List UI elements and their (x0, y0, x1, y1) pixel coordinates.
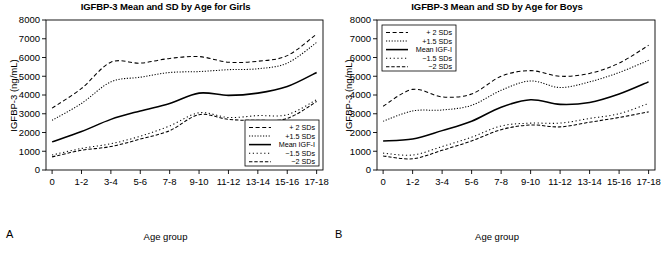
svg-text:3000: 3000 (350, 108, 371, 119)
panel-letter-b: B (335, 228, 342, 240)
svg-text:15-16: 15-16 (275, 176, 299, 187)
svg-text:2000: 2000 (19, 127, 40, 138)
svg-text:1-2: 1-2 (75, 176, 89, 187)
svg-text:5000: 5000 (350, 71, 371, 82)
chart-svg-boys: 01000200030004000500060007000800001-23-4… (331, 16, 663, 208)
svg-text:5-6: 5-6 (465, 176, 479, 187)
svg-text:11-12: 11-12 (217, 176, 241, 187)
figure-container: IGFBP-3 Mean and SD by Age for Girls IGF… (0, 0, 663, 253)
svg-text:0: 0 (380, 176, 385, 187)
svg-text:13-14: 13-14 (246, 176, 270, 187)
svg-text:4000: 4000 (19, 89, 40, 100)
series-line (383, 103, 648, 155)
legend-label: −2 SDs (291, 157, 315, 166)
series-line (383, 82, 648, 141)
x-axis-label-boys: Age group (331, 231, 663, 242)
series-line (52, 43, 317, 121)
panel-title-boys: IGFBP-3 Mean and SD by Age for Boys (331, 1, 663, 12)
svg-text:6000: 6000 (350, 52, 371, 63)
svg-text:7000: 7000 (19, 33, 40, 44)
svg-text:17-18: 17-18 (304, 176, 328, 187)
svg-text:1000: 1000 (350, 146, 371, 157)
svg-text:8000: 8000 (19, 16, 40, 25)
chart-legend: + 2 SDs+1.5 SDsMean IGF-I−1.5 SDs−2 SDs (245, 120, 319, 166)
svg-text:3-4: 3-4 (435, 176, 449, 187)
panel-girls: IGFBP-3 Mean and SD by Age for Girls IGF… (0, 0, 331, 253)
svg-text:11-12: 11-12 (548, 176, 572, 187)
svg-text:0: 0 (49, 176, 54, 187)
svg-text:7000: 7000 (350, 33, 371, 44)
svg-text:9-10: 9-10 (521, 176, 540, 187)
svg-text:4000: 4000 (350, 89, 371, 100)
svg-text:15-16: 15-16 (607, 176, 631, 187)
x-axis-label-girls: Age group (0, 231, 331, 242)
chart-legend: + 2 SDs+1.5 SDsMean IGF-I−1.5 SDs−2 SDs (382, 25, 456, 71)
svg-text:3-4: 3-4 (104, 176, 118, 187)
svg-text:3000: 3000 (19, 108, 40, 119)
plot-area-girls: IGFBP-3 (ng/mL) 010002000300040005000600… (0, 16, 331, 208)
panel-letter-a: A (6, 228, 13, 240)
svg-text:7-8: 7-8 (163, 176, 177, 187)
svg-text:0: 0 (366, 164, 371, 175)
svg-text:5000: 5000 (19, 71, 40, 82)
svg-text:5-6: 5-6 (133, 176, 147, 187)
svg-text:8000: 8000 (350, 16, 371, 25)
svg-text:13-14: 13-14 (577, 176, 601, 187)
series-line (383, 112, 648, 159)
svg-text:1-2: 1-2 (406, 176, 420, 187)
chart-svg-girls: 01000200030004000500060007000800001-23-4… (0, 16, 331, 208)
svg-text:7-8: 7-8 (494, 176, 508, 187)
panel-boys: IGFBP-3 Mean and SD by Age for Boys IGFB… (331, 0, 663, 253)
panel-title-girls: IGFBP-3 Mean and SD by Age for Girls (0, 1, 331, 12)
svg-text:17-18: 17-18 (636, 176, 660, 187)
svg-text:1000: 1000 (19, 146, 40, 157)
svg-text:0: 0 (35, 164, 40, 175)
legend-label: −2 SDs (428, 62, 452, 71)
svg-text:6000: 6000 (19, 52, 40, 63)
svg-text:2000: 2000 (350, 127, 371, 138)
svg-text:9-10: 9-10 (190, 176, 209, 187)
plot-area-boys: IGFBP-3 (ng/mL) 010002000300040005000600… (331, 16, 663, 208)
